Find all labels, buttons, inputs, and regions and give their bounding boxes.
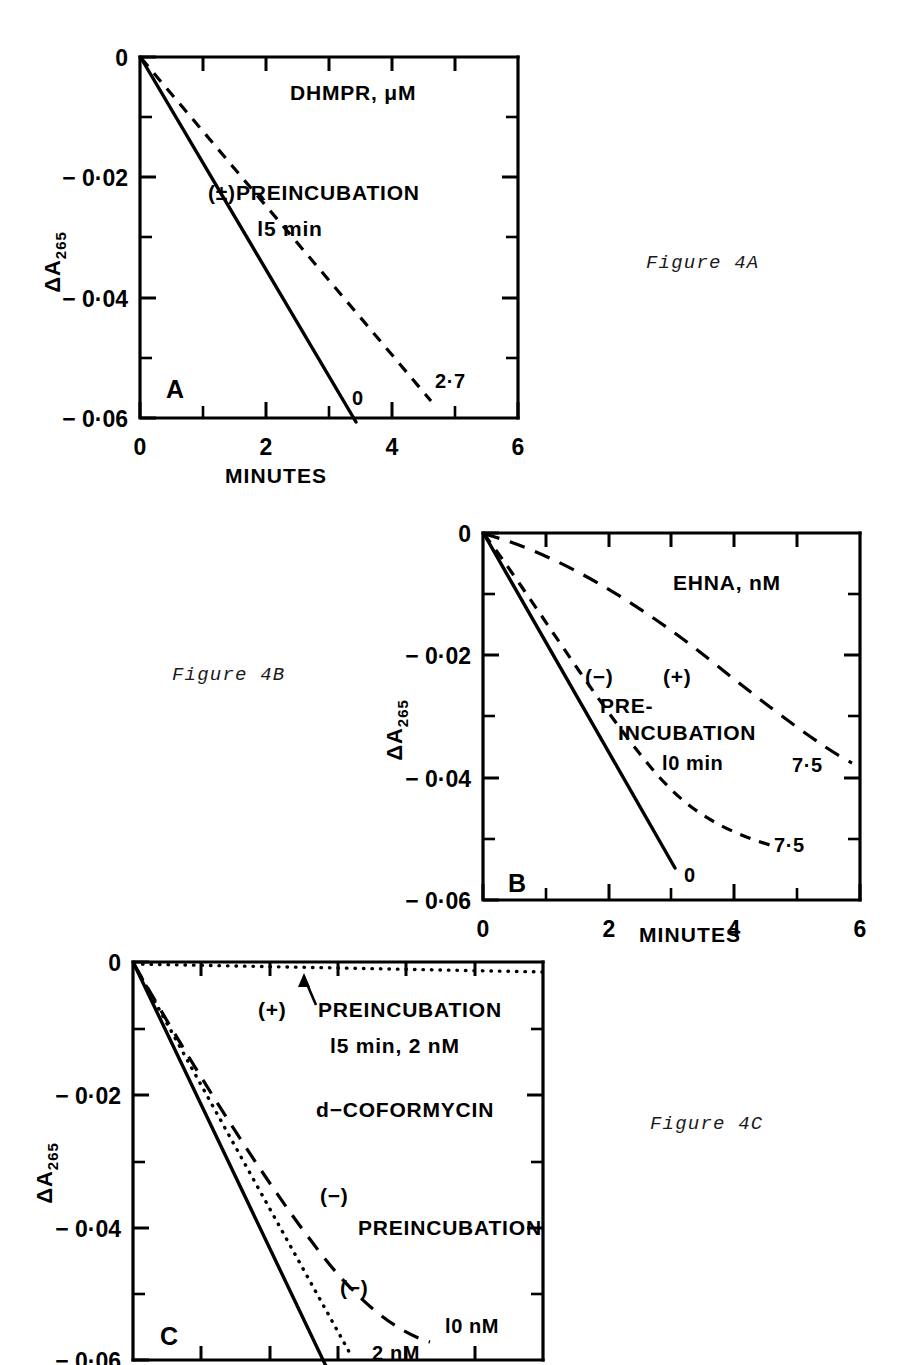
arrow-to-flat-curve	[298, 973, 316, 1005]
panel-c-yaxis-title: ΔA265	[32, 1142, 61, 1204]
panel-a-yaxis-delta: ΔA	[40, 259, 65, 293]
panel-c-plus-detail: l5 min, 2 nM	[330, 1034, 460, 1057]
x-ticks-top	[203, 57, 455, 71]
panel-b-yaxis-delta: ΔA	[382, 727, 407, 761]
x-ticks-bottom	[140, 402, 518, 418]
panel-a-curve-label-solid: 0	[352, 387, 364, 409]
panel-c: 0 − 0·02 − 0·04 − 0·06 ΔA265 (+) PREINCU…	[0, 905, 600, 1365]
panel-c-curve-label-dashed: l0 nM	[445, 1315, 499, 1337]
panel-c-minus-condition: PREINCUBATION	[358, 1216, 542, 1239]
panel-a-ytick-0: 0	[115, 45, 128, 71]
panel-a-yaxis-sub: 265	[52, 231, 69, 259]
figure-root: 0 − 0·02 − 0·04 − 0·06 0 2 4 6 MINUTES Δ…	[0, 0, 903, 1365]
panel-b-yaxis-sub: 265	[394, 699, 411, 727]
curve-c-solid-0nm	[134, 964, 335, 1365]
y-ticks-right	[502, 117, 518, 358]
panel-a-xtick-1: 2	[260, 434, 273, 460]
panel-b: 0 − 0·02 − 0·04 − 0·06 0 2 4 6 MINUTES Δ…	[340, 500, 903, 950]
panel-b-ytick-0: 0	[458, 521, 471, 547]
x-ticks-top	[546, 533, 797, 547]
panel-c-ytick-0: 0	[108, 950, 121, 976]
panel-c-plus-condition: PREINCUBATION	[318, 998, 502, 1021]
panel-b-xaxis-title: MINUTES	[639, 923, 741, 946]
panel-c-minus-marker-1: (−)	[320, 1184, 349, 1207]
panel-b-curve-label-solid: 0	[684, 864, 696, 886]
panel-c-ytick-3: − 0·06	[55, 1348, 121, 1365]
panel-b-xtick-3: 6	[854, 916, 867, 942]
y-ticks-minor	[133, 1029, 145, 1294]
panel-a-xtick-0: 0	[134, 434, 147, 460]
panel-a-condition-annotation: (±)PREINCUBATION	[208, 181, 420, 204]
panel-a-letter: A	[166, 375, 184, 403]
panel-a-xtick-2: 4	[386, 434, 399, 460]
x-ticks-bottom	[483, 884, 860, 900]
y-ticks-minor	[483, 594, 495, 839]
panel-b-curve-label-plus: 7·5	[792, 754, 823, 776]
panel-c-caption: Figure 4C	[650, 1113, 763, 1135]
panel-a: 0 − 0·02 − 0·04 − 0·06 0 2 4 6 MINUTES Δ…	[0, 0, 580, 490]
y-ticks-right	[527, 1029, 543, 1294]
svg-text:ΔA265: ΔA265	[40, 231, 69, 293]
panel-b-plot: 0 − 0·02 − 0·04 − 0·06 0 2 4 6 MINUTES Δ…	[340, 500, 903, 950]
panel-a-caption: Figure 4A	[646, 252, 759, 274]
panel-c-ytick-2: − 0·04	[55, 1216, 121, 1242]
panel-a-curve-label-dashed: 2·7	[435, 370, 466, 392]
panel-c-curve-label-dotted: 2 nM	[372, 1342, 420, 1364]
panel-b-time-annotation: l0 min	[662, 752, 723, 774]
panel-a-ytick-3: − 0·06	[62, 406, 128, 432]
panel-b-ytick-1: − 0·02	[405, 643, 471, 669]
panel-a-ytick-2: − 0·04	[62, 286, 128, 312]
panel-a-yaxis-title: ΔA265	[40, 231, 69, 293]
panel-c-plus-marker: (+)	[258, 998, 287, 1021]
panel-b-caption: Figure 4B	[172, 664, 285, 686]
y-ticks-minor	[140, 117, 152, 358]
panel-c-letter: C	[160, 1322, 178, 1350]
panel-c-yaxis-sub: 265	[44, 1142, 61, 1170]
panel-b-yaxis-title: ΔA265	[382, 699, 411, 761]
panel-b-ytick-2: − 0·04	[405, 766, 471, 792]
panel-a-xaxis-title: MINUTES	[225, 464, 327, 487]
panel-c-ytick-1: − 0·02	[55, 1083, 121, 1109]
panel-b-letter: B	[508, 869, 526, 897]
panel-c-minus-marker-2: (−)	[340, 1276, 369, 1299]
panel-b-minus-marker: (−)	[585, 665, 614, 688]
panel-b-xtick-1: 2	[603, 916, 616, 942]
panel-b-condition-line2: INCUBATION	[618, 721, 756, 744]
panel-a-time-annotation: l5 min	[257, 217, 322, 240]
y-ticks-right	[844, 594, 860, 839]
panel-a-plot: 0 − 0·02 − 0·04 − 0·06 0 2 4 6 MINUTES Δ…	[0, 0, 580, 490]
panel-c-drug-annotation: d−COFORMYCIN	[316, 1098, 494, 1121]
panel-b-plus-marker: (+)	[663, 665, 692, 688]
curve-a-solid-0	[141, 58, 356, 422]
x-ticks-bottom	[201, 1346, 475, 1360]
panel-a-title-annotation: DHMPR, μM	[290, 81, 416, 104]
svg-text:ΔA265: ΔA265	[382, 699, 411, 761]
panel-b-curve-label-minus: 7·5	[774, 834, 805, 856]
panel-c-yaxis-delta: ΔA	[32, 1170, 57, 1204]
panel-b-condition-line1: PRE-	[600, 694, 653, 717]
panel-b-title-annotation: EHNA, nM	[673, 571, 781, 594]
panel-a-ytick-1: − 0·02	[62, 165, 128, 191]
axis-lines	[140, 57, 518, 418]
panel-c-plot: 0 − 0·02 − 0·04 − 0·06 ΔA265 (+) PREINCU…	[0, 905, 600, 1365]
svg-text:ΔA265: ΔA265	[32, 1142, 61, 1204]
panel-a-xtick-3: 6	[512, 434, 525, 460]
